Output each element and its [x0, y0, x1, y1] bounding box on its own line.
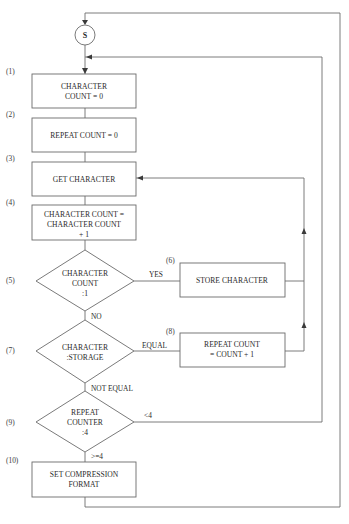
edge-label-gte-4: >=4 — [91, 452, 103, 461]
step-text-line: :STORAGE — [67, 353, 104, 362]
step-4-increment-character-count: (4) CHARACTER COUNT = CHARACTER COUNT + … — [6, 198, 136, 240]
step-3-get-character: (3) GET CHARACTER — [6, 154, 136, 196]
start-node: S — [75, 25, 95, 45]
step-text-line: REPEAT COUNT — [204, 340, 260, 349]
step-text-line: REPEAT COUNT = 0 — [50, 131, 118, 140]
step-8-increment-repeat-count: (8) REPEAT COUNT = COUNT + 1 — [166, 327, 285, 367]
start-label: S — [83, 31, 88, 40]
arrow-up-8-icon — [302, 322, 307, 328]
step-number: (4) — [6, 198, 15, 207]
edge-label-not-equal: NOT EQUAL — [91, 384, 133, 393]
arrow-up-6-icon — [302, 228, 307, 234]
arrow-into-1-icon — [82, 68, 88, 74]
step-number: (3) — [6, 154, 15, 163]
arrow-less-than-4-icon — [86, 55, 92, 60]
arrow-into-3-icon — [137, 176, 143, 181]
step-text-line: COUNTER — [67, 418, 104, 427]
step-number: (5) — [6, 276, 15, 285]
step-text-line: :4 — [82, 428, 88, 437]
step-text-line: + 1 — [79, 230, 89, 239]
step-text-line: GET CHARACTER — [53, 175, 116, 184]
step-text-line: COUNT — [72, 279, 99, 288]
step-text-line: = COUNT + 1 — [210, 350, 254, 359]
step-number: (9) — [6, 418, 15, 427]
step-text-line: REPEAT — [71, 408, 99, 417]
step-10-set-compression-format: (10) SET COMPRESSION FORMAT — [6, 456, 136, 497]
step-number: (1) — [6, 67, 15, 76]
edge-8-to-3 — [285, 281, 304, 351]
edge-label-less-than-4: <4 — [144, 411, 152, 420]
step-number: (2) — [6, 110, 15, 119]
step-7-character-storage-decision: (7) CHARACTER :STORAGE — [6, 320, 134, 383]
step-text-line: CHARACTER — [62, 269, 109, 278]
step-2-repeat-count-zero: (2) REPEAT COUNT = 0 — [6, 110, 136, 152]
step-number: (6) — [166, 256, 175, 265]
step-text-line: CHARACTER — [61, 82, 108, 91]
step-6-store-character: (6) STORE CHARACTER — [166, 256, 285, 297]
edge-label-no: NO — [91, 312, 102, 321]
flowchart-diagram: S (1) CHARACTER COUNT = 0 (2) REPEAT COU… — [0, 0, 349, 524]
step-text-line: SET COMPRESSION — [50, 470, 119, 479]
step-text-line: FORMAT — [69, 480, 100, 489]
edge-label-yes: YES — [149, 270, 163, 279]
step-number: (8) — [166, 327, 175, 336]
step-1-character-count-zero: (1) CHARACTER COUNT = 0 — [6, 67, 136, 108]
step-5-character-count-decision: (5) CHARACTER COUNT :1 — [6, 250, 134, 311]
step-text-line: :1 — [82, 289, 88, 298]
step-9-repeat-counter-decision: (9) REPEAT COUNTER :4 — [6, 391, 134, 452]
step-text-line: CHARACTER — [62, 343, 109, 352]
step-text-line: COUNT = 0 — [65, 92, 103, 101]
step-text-line: CHARACTER COUNT — [47, 220, 121, 229]
step-text-line: STORE CHARACTER — [196, 276, 269, 285]
step-number: (7) — [6, 346, 15, 355]
step-number: (10) — [6, 456, 19, 465]
step-text-line: CHARACTER COUNT = — [44, 210, 124, 219]
arrow-into-start-icon — [82, 20, 88, 25]
edge-label-equal: EQUAL — [142, 341, 168, 350]
